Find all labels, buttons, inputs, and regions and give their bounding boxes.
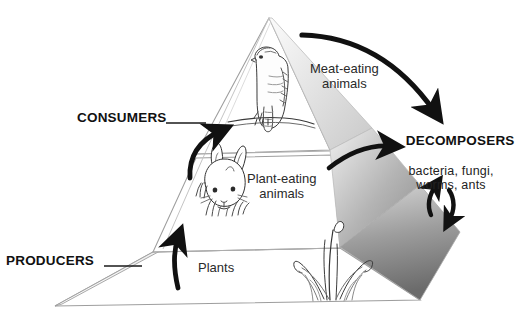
label-plant-eating-animals: Plant-eating animals — [247, 172, 316, 201]
label-meat-eating-animals: Meat-eating animals — [310, 62, 379, 91]
label-plants: Plants — [198, 261, 234, 276]
label-decomposers: DECOMPOSERS bacteria, fungi, worms, ants — [390, 118, 512, 223]
decomposers-detail: bacteria, fungi, worms, ants — [390, 164, 512, 192]
decomposers-heading: DECOMPOSERS — [406, 133, 515, 148]
label-consumers: CONSUMERS — [77, 110, 167, 125]
label-producers: PRODUCERS — [6, 253, 94, 268]
